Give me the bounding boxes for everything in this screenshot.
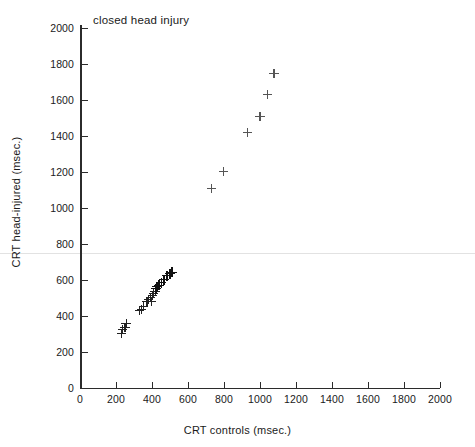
y-tick-label: 1400 — [50, 130, 74, 142]
y-tick — [82, 136, 88, 137]
x-tick-label: 0 — [77, 393, 83, 405]
x-tick-label: 400 — [143, 393, 161, 405]
x-tick — [332, 382, 333, 388]
y-tick — [82, 64, 88, 65]
x-tick-label-group: 0200400600800100012001400160018002000 — [0, 393, 475, 413]
x-tick — [440, 382, 441, 388]
x-tick-label: 1000 — [248, 393, 272, 405]
x-tick-label: 2000 — [428, 393, 452, 405]
x-tick — [80, 383, 81, 389]
x-tick — [188, 382, 189, 388]
x-axis-title: CRT controls (msec.) — [0, 424, 475, 436]
y-tick — [82, 172, 88, 173]
y-tick — [82, 100, 88, 101]
y-tick-label: 800 — [56, 238, 74, 250]
x-tick — [260, 382, 261, 388]
y-tick-label: 0 — [68, 382, 74, 394]
x-tick-label: 200 — [107, 393, 125, 405]
x-tick-label: 1600 — [356, 393, 380, 405]
x-tick-label: 600 — [179, 393, 197, 405]
y-tick — [82, 316, 88, 317]
y-tick — [82, 28, 88, 29]
x-tick-label: 800 — [215, 393, 233, 405]
x-tick-label: 1200 — [284, 393, 308, 405]
plot-area — [80, 25, 440, 388]
y-tick — [82, 208, 88, 209]
y-tick-label: 1600 — [50, 94, 74, 106]
x-tick — [116, 382, 117, 388]
x-tick-label: 1800 — [392, 393, 416, 405]
y-tick-label: 1200 — [50, 166, 74, 178]
y-tick-label: 600 — [56, 274, 74, 286]
y-tick — [82, 352, 88, 353]
x-tick — [152, 382, 153, 388]
y-tick-label: 1800 — [50, 58, 74, 70]
x-tick-label: 1400 — [320, 393, 344, 405]
y-tick — [82, 280, 88, 281]
y-tick-label: 200 — [56, 346, 74, 358]
x-tick — [404, 382, 405, 388]
chart-figure: closed head injury 020040060080010001200… — [0, 0, 475, 447]
x-tick — [368, 382, 369, 388]
y-tick — [82, 244, 88, 245]
y-axis-title: CRT head-injured (msec.) — [10, 102, 22, 302]
y-tick-label: 2000 — [50, 22, 74, 34]
x-tick — [296, 382, 297, 388]
x-tick — [224, 382, 225, 388]
y-tick-label: 1000 — [50, 202, 74, 214]
y-tick-label: 400 — [56, 310, 74, 322]
